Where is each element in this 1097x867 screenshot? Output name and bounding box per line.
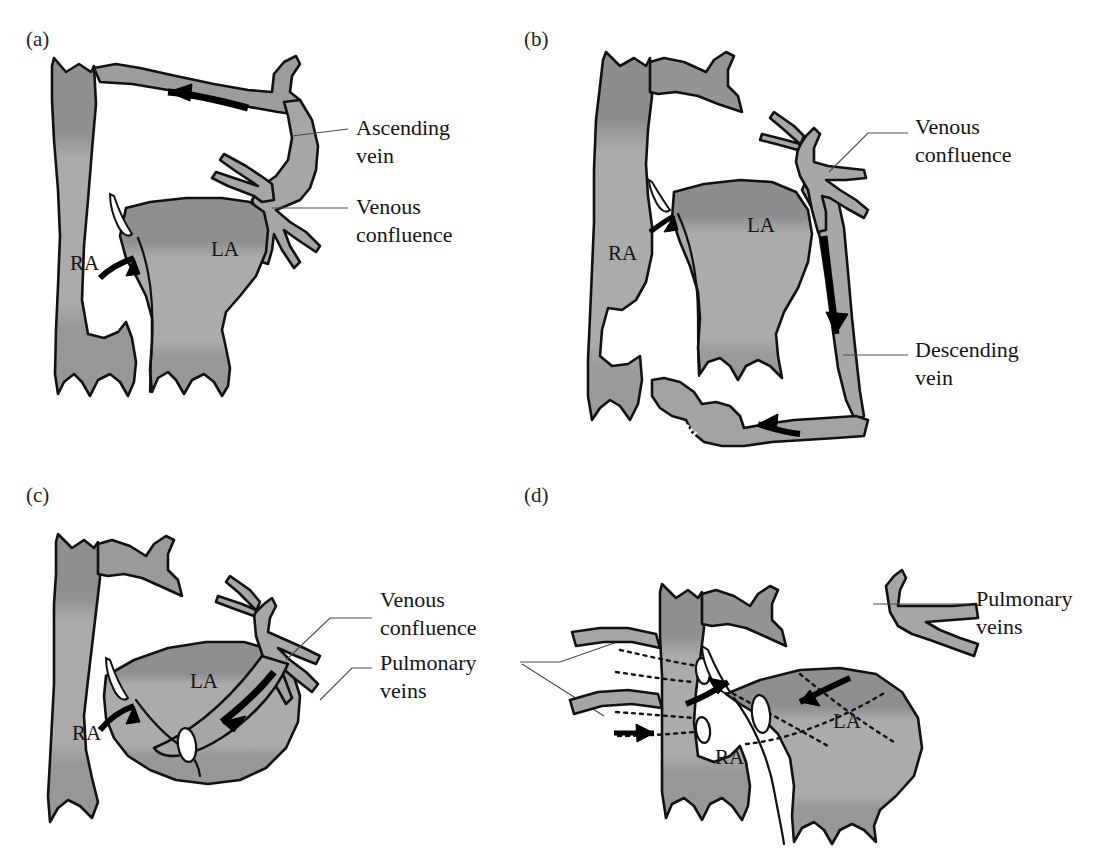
panel-d-ra-label: RA [715,745,745,769]
panel-b-annot-descending-vein-line1: Descending [915,337,1019,362]
panel-b-annot-venous-confluence-line1: Venous [915,114,980,139]
tapvc-figure: (a) RA LA Ascending vein [0,0,1097,867]
panel-d-label: (d) [524,483,549,507]
panel-a-ra-label: RA [70,251,100,275]
panel-b-label: (b) [524,27,549,51]
panel-b-annot-descending-vein-line2: vein [915,365,953,390]
panel-b-annot-venous-confluence-line2: confluence [915,142,1012,167]
panel-c-annot-venous-confluence-line2: confluence [380,615,477,640]
panel-c-annot-pulmonary-veins-line2: veins [380,678,426,703]
panel-a-annot-venous-confluence-line1: Venous [356,194,421,219]
panel-c-ra-label: RA [72,721,102,745]
figure-canvas: (a) RA LA Ascending vein [0,0,1097,867]
panel-a-la-label: LA [211,237,240,261]
panel-d-annot-pulmonary-veins-line1: Pulmonary [976,586,1073,611]
panel-a-label: (a) [26,27,49,51]
panel-c-annot-pulmonary-veins-line1: Pulmonary [380,650,477,675]
panel-b-ra-label: RA [608,241,638,265]
panel-a-annot-ascending-vein-line2: vein [356,143,394,168]
panel-a-annot-ascending-vein-line1: Ascending [356,115,450,140]
panel-d-annot-pulmonary-veins-line2: veins [976,614,1022,639]
panel-b-la-label: LA [747,213,776,237]
panel-c-annot-venous-confluence-line1: Venous [380,587,445,612]
panel-c-label: (c) [26,483,49,507]
panel-d-la-label: LA [833,709,862,733]
panel-a-annot-venous-confluence-line2: confluence [356,222,453,247]
panel-c-la-label: LA [190,669,219,693]
